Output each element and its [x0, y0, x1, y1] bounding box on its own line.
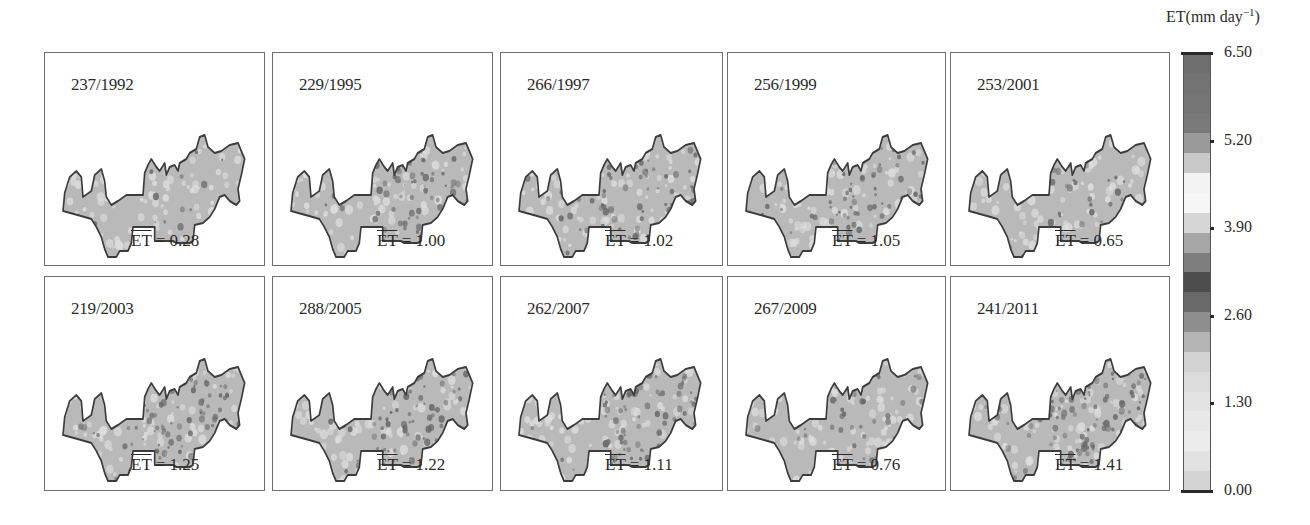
- colorbar-title-close: ): [1255, 8, 1260, 25]
- map-panel: 288/2005ET = 1.22: [272, 276, 493, 491]
- mean-et-value: = 1.25: [151, 455, 199, 474]
- mean-et-symbol: ET: [605, 231, 625, 250]
- panel-mean-et: ET = 1.05: [832, 231, 900, 251]
- mean-et-symbol: ET: [832, 455, 852, 474]
- colorbar-tick-label: 3.90: [1224, 218, 1252, 236]
- colorbar-tick-label: 0.00: [1224, 481, 1252, 499]
- colorbar-tick: [1210, 140, 1214, 143]
- map-panel: 241/2011ET = 1.41: [950, 276, 1170, 491]
- colorbar-band: [1184, 451, 1210, 471]
- mean-et-symbol: ET: [377, 455, 397, 474]
- mean-et-value: = 1.05: [852, 231, 900, 250]
- mean-et-value: = 1.02: [625, 231, 673, 250]
- panel-date-label: 266/1997: [527, 75, 590, 95]
- panel-mean-et: ET = 1.22: [377, 455, 445, 475]
- panel-date-label: 241/2011: [977, 299, 1039, 319]
- map-panel: 266/1997ET = 1.02: [500, 52, 723, 266]
- mean-et-value: = 1.11: [625, 455, 672, 474]
- colorbar-top-cap: [1181, 52, 1213, 55]
- colorbar-title-exponent: −1: [1243, 6, 1255, 18]
- panel-date-label: 219/2003: [71, 299, 134, 319]
- panel-mean-et: ET = 1.00: [377, 231, 445, 251]
- panel-mean-et: ET = 0.76: [832, 455, 900, 475]
- colorbar-band: [1184, 332, 1210, 352]
- panel-date-label: 267/2009: [754, 299, 817, 319]
- mean-et-symbol: ET: [832, 231, 852, 250]
- mean-et-value: = 0.28: [151, 231, 199, 250]
- panel-date-label: 288/2005: [299, 299, 362, 319]
- panel-date-label: 229/1995: [299, 75, 362, 95]
- map-panel: 237/1992ET = 0.28: [44, 52, 265, 266]
- colorbar-band: [1184, 372, 1210, 392]
- mean-et-value: = 1.41: [1075, 455, 1123, 474]
- mean-et-value: = 1.00: [397, 231, 445, 250]
- colorbar-band: [1184, 213, 1210, 233]
- mean-et-symbol: ET: [605, 455, 625, 474]
- mean-et-value: = 0.65: [1075, 231, 1123, 250]
- mean-et-value: = 1.22: [397, 455, 445, 474]
- colorbar-title: ET(mm day−1): [1166, 6, 1260, 26]
- map-panel: 253/2001ET = 0.65: [950, 52, 1170, 266]
- colorbar-tick: [1210, 315, 1214, 318]
- colorbar-band: [1184, 253, 1210, 273]
- map-panel: 219/2003ET = 1.25: [44, 276, 265, 491]
- colorbar-tick: [1210, 227, 1214, 230]
- colorbar-tick-label: 1.30: [1224, 393, 1252, 411]
- colorbar-band: [1184, 292, 1210, 312]
- panel-mean-et: ET = 1.02: [605, 231, 673, 251]
- map-panel: 262/2007ET = 1.11: [500, 276, 723, 491]
- mean-et-symbol: ET: [131, 455, 151, 474]
- colorbar-tick-label: 6.50: [1224, 43, 1252, 61]
- colorbar: [1183, 53, 1211, 492]
- mean-et-value: = 0.76: [852, 455, 900, 474]
- panel-mean-et: ET = 1.25: [131, 455, 199, 475]
- colorbar-band: [1184, 471, 1210, 491]
- colorbar-band: [1184, 233, 1210, 253]
- map-panel: 267/2009ET = 0.76: [727, 276, 946, 491]
- colorbar-tick: [1210, 402, 1214, 405]
- colorbar-band: [1184, 431, 1210, 451]
- colorbar-band: [1184, 411, 1210, 431]
- map-panel: 256/1999ET = 1.05: [727, 52, 946, 266]
- panel-mean-et: ET = 0.28: [131, 231, 199, 251]
- panel-date-label: 237/1992: [71, 75, 134, 95]
- colorbar-band: [1184, 153, 1210, 173]
- colorbar-tick-label: 2.60: [1224, 306, 1252, 324]
- colorbar-band: [1184, 392, 1210, 412]
- mean-et-symbol: ET: [377, 231, 397, 250]
- mean-et-symbol: ET: [1055, 455, 1075, 474]
- panel-mean-et: ET = 0.65: [1055, 231, 1123, 251]
- panel-mean-et: ET = 1.41: [1055, 455, 1123, 475]
- colorbar-title-main: ET(mm day: [1166, 8, 1243, 25]
- colorbar-band: [1184, 54, 1210, 74]
- panel-mean-et: ET = 1.11: [605, 455, 673, 475]
- panel-date-label: 256/1999: [754, 75, 817, 95]
- colorbar-band: [1184, 312, 1210, 332]
- panel-date-label: 253/2001: [977, 75, 1040, 95]
- colorbar-band: [1184, 74, 1210, 94]
- colorbar-band: [1184, 114, 1210, 134]
- colorbar-band: [1184, 133, 1210, 153]
- colorbar-tick-label: 5.20: [1224, 131, 1252, 149]
- map-panel: 229/1995ET = 1.00: [272, 52, 493, 266]
- mean-et-symbol: ET: [131, 231, 151, 250]
- panel-date-label: 262/2007: [527, 299, 590, 319]
- colorbar-bottom-cap: [1181, 490, 1213, 493]
- colorbar-band: [1184, 352, 1210, 372]
- colorbar-band: [1184, 94, 1210, 114]
- colorbar-band: [1184, 272, 1210, 292]
- mean-et-symbol: ET: [1055, 231, 1075, 250]
- colorbar-band: [1184, 173, 1210, 193]
- colorbar-band: [1184, 193, 1210, 213]
